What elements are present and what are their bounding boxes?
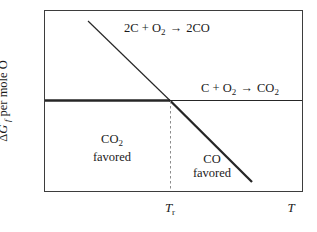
reaction-co2-post-sub: 2 (274, 87, 279, 97)
y-axis-delta: Δ (0, 134, 10, 142)
x-axis-variable-label: T (281, 200, 301, 216)
region-co2-state: favored (72, 150, 152, 164)
reaction-co-sub: 2 (161, 27, 166, 37)
reaction-co2-post: CO (257, 81, 274, 95)
region-co-state: favored (176, 166, 248, 180)
reaction-co-post: 2CO (186, 21, 210, 35)
reaction-co-pre: 2C + O (124, 21, 161, 35)
x-axis-variable-symbol: T (287, 200, 294, 215)
x-tick-label-tr: Tr (150, 200, 190, 217)
region-label-co-favored: CO favored (176, 152, 248, 180)
reaction-label-co2: C + O2 → CO2 (190, 81, 290, 99)
y-axis-symbol: G (0, 125, 10, 134)
region-co2-species: CO (101, 132, 118, 146)
reaction-co-arrow: → (169, 21, 184, 35)
region-co-species: CO (203, 152, 220, 166)
y-axis-superscript: ° (0, 122, 5, 126)
y-axis-suffix: per mole O (0, 60, 10, 119)
x-tick-tr-subscript: r (172, 207, 175, 217)
reaction-label-co: 2C + O2 → 2CO (117, 21, 217, 39)
reaction-co2-sub: 2 (232, 87, 237, 97)
ellingham-diagram-figure: ΔG°f per mole O 2C + O2 → 2CO C + O2 → C… (0, 0, 317, 232)
reaction-co2-arrow: → (239, 81, 254, 95)
region-co2-sub: 2 (118, 138, 123, 148)
reaction-co2-pre: C + O (201, 81, 232, 95)
region-label-co2-favored: CO2 favored (72, 132, 152, 164)
y-axis-label: ΔG°f per mole O (0, 10, 11, 192)
